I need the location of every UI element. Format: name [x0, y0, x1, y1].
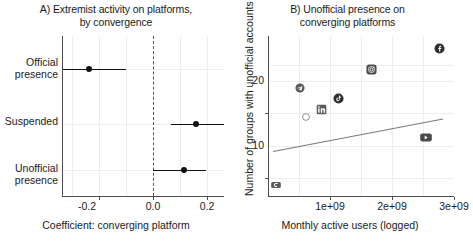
gridline-v — [423, 36, 424, 196]
y-tick-label-20: 20 — [242, 75, 264, 87]
gridline-v — [126, 36, 127, 196]
data-point-tiktok — [333, 93, 344, 104]
x-tick-label-neg02: -0.2 — [62, 200, 112, 212]
x-tick-label-1e09: 1e+09 — [305, 200, 355, 212]
gridline-v — [330, 36, 331, 196]
data-point-gab — [271, 181, 281, 189]
telegram-icon — [295, 83, 305, 93]
estimate-point-suspended — [193, 121, 199, 127]
gridline-v — [392, 36, 393, 196]
x-tick-label-3e09: 3e+09 — [429, 200, 473, 212]
panel-a-plot-area — [62, 36, 224, 196]
data-point-instagram — [366, 64, 377, 75]
panel-a-x-axis-title: Coefficient: converging platform — [8, 219, 224, 231]
confidence-interval-unofficial — [153, 170, 206, 171]
zero-reference-line — [153, 36, 154, 196]
y-tick-label-10: 10 — [242, 140, 264, 152]
gridline-v — [72, 36, 73, 196]
panel-b-title-line1: B) Unofficial presence on — [232, 3, 463, 16]
panel-a-title-line1: A) Extremist activity on platforms, — [0, 3, 232, 16]
category-label-unofficial-line1: Unofficial — [0, 163, 58, 175]
facebook-icon — [434, 43, 445, 54]
panel-b-plot-area — [268, 36, 454, 196]
gridline-h — [268, 65, 454, 66]
panel-b-y-axis-title: Number of groups with unofficial account… — [243, 1, 255, 196]
panel-b-x-axis-title: Monthly active users (logged) — [246, 219, 454, 231]
gridline-h — [268, 113, 454, 114]
panel-a-title-line2: by convergence — [0, 16, 232, 29]
tiktok-icon — [333, 93, 344, 104]
y-tick-mark — [265, 178, 268, 179]
gridline-h — [268, 81, 454, 82]
x-axis-line — [62, 196, 224, 197]
estimate-point-unofficial — [181, 167, 187, 173]
vk-icon — [302, 113, 310, 121]
estimate-point-official — [86, 66, 92, 72]
gab-icon — [271, 181, 281, 189]
y-axis-line — [62, 36, 63, 196]
panel-a-title: A) Extremist activity on platforms, by c… — [0, 3, 232, 28]
category-label-unofficial-line2: presence — [0, 175, 58, 187]
category-label-suspended: Suspended — [0, 116, 58, 128]
panel-b-title-line2: converging platforms — [232, 16, 463, 29]
confidence-interval-official — [62, 69, 126, 70]
x-tick-label-pos02: 0.2 — [182, 200, 232, 212]
gridline-h — [268, 178, 454, 179]
panel-b: B) Unofficial presence on converging pla… — [232, 0, 463, 242]
category-label-suspended-line1: Suspended — [0, 116, 58, 128]
panel-b-title: B) Unofficial presence on converging pla… — [232, 3, 463, 28]
gridline-v — [207, 36, 208, 196]
category-label-official-line2: presence — [0, 69, 58, 81]
category-label-official-line1: Official — [0, 57, 58, 69]
instagram-icon — [366, 64, 377, 75]
x-axis-line — [268, 196, 454, 197]
panel-a: A) Extremist activity on platforms, by c… — [0, 0, 232, 242]
y-axis-line — [268, 36, 269, 196]
youtube-icon — [420, 133, 432, 142]
x-tick-label-2e09: 2e+09 — [367, 200, 417, 212]
gridline-v — [361, 36, 362, 196]
data-point-linkedin — [316, 104, 327, 115]
data-point-youtube — [420, 133, 432, 142]
data-point-vk — [302, 113, 310, 121]
data-point-facebook — [434, 43, 445, 54]
category-label-official: Official presence — [0, 57, 58, 80]
x-tick-label-zero: 0.0 — [128, 200, 178, 212]
gridline-v — [299, 36, 300, 196]
linkedin-icon — [316, 104, 327, 115]
category-label-unofficial: Unofficial presence — [0, 163, 58, 186]
y-tick-mark — [265, 113, 268, 114]
gridline-v — [99, 36, 100, 196]
data-point-telegram — [295, 83, 305, 93]
